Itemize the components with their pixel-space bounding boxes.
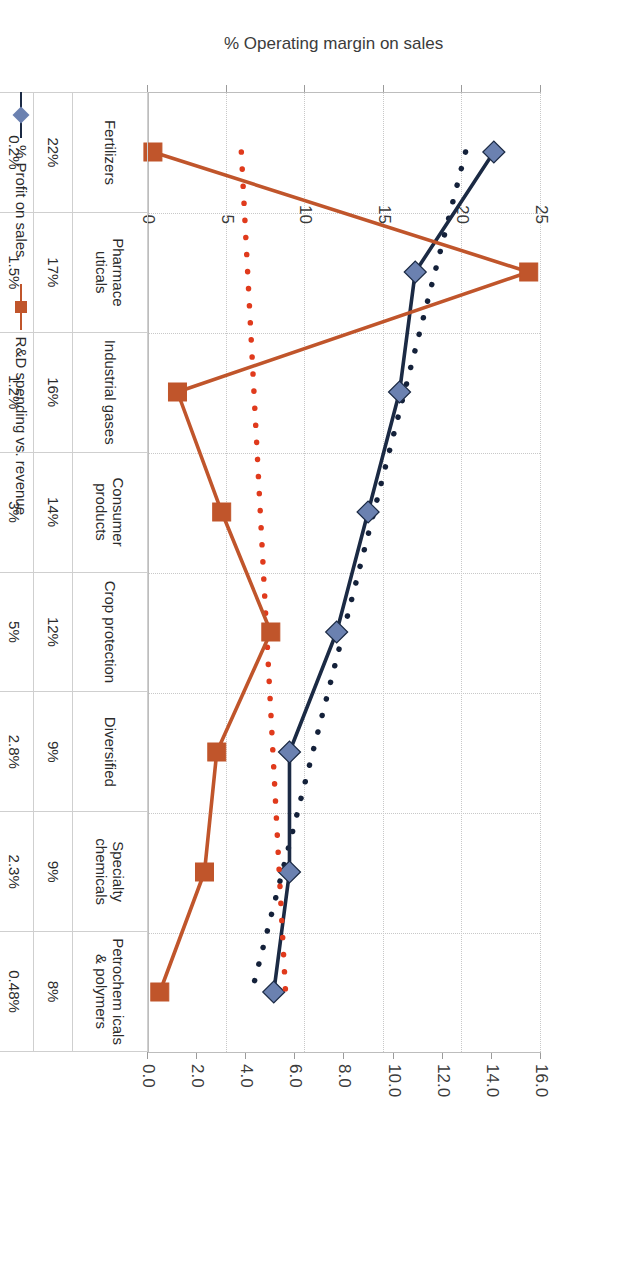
secondary-tick-label: 12.0 bbox=[433, 1064, 453, 1097]
data-point-rd[interactable] bbox=[195, 863, 213, 881]
legend-item[interactable]: % Profit on sales bbox=[13, 92, 30, 258]
table-cell-category: Pharmace uticals bbox=[73, 212, 148, 332]
legend-marker-diamond-icon bbox=[13, 107, 30, 124]
table-cell-category: Specialty chemicals bbox=[73, 812, 148, 932]
table-cell-value: 9% bbox=[34, 812, 73, 932]
table-cell-value: 2.8% bbox=[0, 692, 34, 812]
table-row: FertilizersPharmace uticalsIndustrial ga… bbox=[73, 93, 148, 1052]
data-point-profit[interactable] bbox=[404, 261, 426, 283]
rotated-container: 0510152025 0.02.04.06.08.010.012.014.016… bbox=[0, 0, 626, 1280]
data-point-profit[interactable] bbox=[278, 741, 300, 763]
data-point-profit[interactable] bbox=[326, 621, 348, 643]
table-cell-category: Industrial gases bbox=[73, 332, 148, 452]
legend-item[interactable]: R&D spending vs. revenue bbox=[13, 284, 30, 515]
data-point-rd[interactable] bbox=[151, 983, 169, 1001]
table-cell-category: Diversified bbox=[73, 692, 148, 812]
table-cell-category: Fertilizers bbox=[73, 93, 148, 213]
secondary-tick-label: 16.0 bbox=[531, 1064, 551, 1097]
table-cell-value: 14% bbox=[34, 452, 73, 572]
table-cell-value: 17% bbox=[34, 212, 73, 332]
legend-marker-square-icon bbox=[16, 301, 28, 313]
secondary-tick-mark bbox=[294, 1052, 295, 1059]
legend-swatch bbox=[15, 284, 29, 330]
primary-tick-mark bbox=[540, 85, 541, 92]
data-point-rd[interactable] bbox=[520, 263, 538, 281]
secondary-tick-label: 6.0 bbox=[285, 1064, 305, 1088]
primary-tick-mark bbox=[147, 85, 148, 92]
secondary-tick-label: 0.0 bbox=[138, 1064, 158, 1088]
data-point-profit[interactable] bbox=[263, 981, 285, 1003]
data-point-rd[interactable] bbox=[208, 743, 226, 761]
legend-label: % Profit on sales bbox=[13, 145, 30, 258]
secondary-tick-label: 2.0 bbox=[187, 1064, 207, 1088]
table-cell-value: 12% bbox=[34, 572, 73, 692]
series-layer bbox=[148, 92, 541, 1052]
secondary-tick-label: 4.0 bbox=[236, 1064, 256, 1088]
primary-tick-mark bbox=[461, 85, 462, 92]
chart-canvas: 0510152025 0.02.04.06.08.010.012.014.016… bbox=[0, 0, 626, 1280]
primary-tick-mark bbox=[226, 85, 227, 92]
secondary-tick-label: 10.0 bbox=[384, 1064, 404, 1097]
table-cell-value: 16% bbox=[34, 332, 73, 452]
table-cell-category: Consumer products bbox=[73, 452, 148, 572]
primary-tick-mark bbox=[383, 85, 384, 92]
table-cell-value: 5% bbox=[0, 572, 34, 692]
secondary-tick-mark bbox=[540, 1052, 541, 1059]
secondary-tick-mark bbox=[393, 1052, 394, 1059]
primary-tick-mark bbox=[304, 85, 305, 92]
table-cell-category: Petrochem icals & polymers bbox=[73, 932, 148, 1052]
secondary-tick-label: 8.0 bbox=[335, 1064, 355, 1088]
legend-swatch bbox=[15, 92, 29, 138]
table-row: 22%17%16%14%12%9%9%8% bbox=[34, 93, 73, 1052]
data-point-rd[interactable] bbox=[262, 623, 280, 641]
secondary-tick-mark bbox=[147, 1052, 148, 1059]
table-cell-value: 8% bbox=[34, 932, 73, 1052]
secondary-tick-mark bbox=[245, 1052, 246, 1059]
legend-label: R&D spending vs. revenue bbox=[13, 337, 30, 515]
table-cell-value: 22% bbox=[34, 93, 73, 213]
primary-axis-title: % Operating margin on sales bbox=[225, 34, 444, 54]
table-cell-value: 0.48% bbox=[0, 932, 34, 1052]
secondary-axis-line bbox=[148, 1052, 541, 1053]
data-point-rd[interactable] bbox=[213, 503, 231, 521]
secondary-tick-label: 14.0 bbox=[482, 1064, 502, 1097]
data-point-rd[interactable] bbox=[168, 383, 186, 401]
secondary-tick-mark bbox=[442, 1052, 443, 1059]
data-point-profit[interactable] bbox=[357, 501, 379, 523]
table-cell-value: 2.3% bbox=[0, 812, 34, 932]
secondary-tick-mark bbox=[491, 1052, 492, 1059]
chart-frame: 0510152025 0.02.04.06.08.010.012.014.016… bbox=[0, 0, 626, 1280]
table-cell-category: Crop protection bbox=[73, 572, 148, 692]
chart-legend: % Profit on salesR&D spending vs. revenu… bbox=[13, 92, 30, 515]
table-cell-value: 9% bbox=[34, 692, 73, 812]
data-point-profit[interactable] bbox=[483, 141, 505, 163]
series-line-profit bbox=[274, 152, 494, 992]
secondary-tick-mark bbox=[344, 1052, 345, 1059]
secondary-tick-mark bbox=[196, 1052, 197, 1059]
